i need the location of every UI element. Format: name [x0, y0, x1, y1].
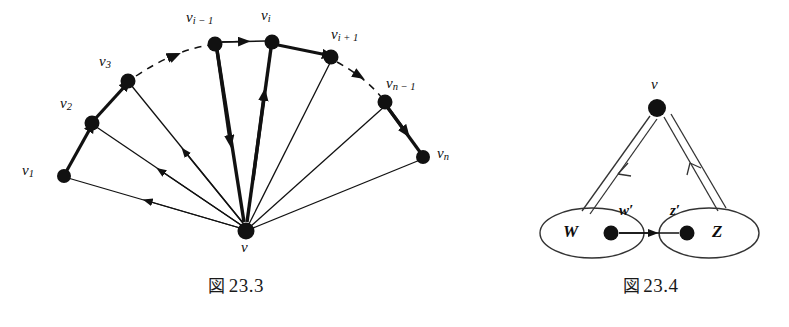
label-vi+1: vi + 1 [331, 27, 358, 44]
edge-v-to-W [582, 116, 657, 214]
arc-edge-vn-1-vn-arrow [388, 108, 405, 131]
spoke-vn-to-v [253, 160, 420, 228]
label-w-prime: w′ [619, 203, 633, 218]
figure-page: v1 v2 v3 vi − 1 vi vi + 1 vn − 1 vn v 図2… [0, 0, 789, 327]
figure-23-3-caption: 図23.3 [0, 272, 486, 297]
edge-Z-to-v [664, 114, 726, 211]
figure-23-4-canvas [500, 0, 789, 270]
arc-edge-v1-v2 [66, 127, 91, 172]
label-vn-1: vn − 1 [386, 76, 416, 93]
vertex-z-prime [680, 226, 695, 241]
arc-edge-group [66, 41, 420, 172]
vertex-vi+1 [324, 50, 339, 65]
arc-edge-vi-vi+1 [278, 45, 327, 55]
vertex-vn [416, 150, 430, 164]
label-center-v: v [241, 240, 248, 255]
label-set-W: W [563, 222, 578, 242]
vertex-vi [265, 35, 280, 50]
spoke-vi+1-to-v [249, 61, 331, 224]
label-set-Z: Z [712, 222, 722, 242]
figure-23-4: v w′ z′ W Z 図23.4 [500, 0, 789, 327]
vertex-v [238, 223, 255, 240]
figure-kanji-icon: 図 [623, 276, 644, 296]
label-vn: vn [437, 146, 449, 163]
label-vi-1: vi − 1 [186, 10, 213, 27]
spoke-v-to-vi-1-arrow [217, 50, 230, 140]
label-v2: v2 [60, 96, 72, 113]
vertex-w-prime [604, 226, 619, 241]
label-v1: v1 [22, 163, 34, 180]
figure-number: 23.4 [643, 275, 678, 296]
figure-23-4-caption: 図23.4 [506, 272, 789, 297]
arc-edge-vi-1-vi-arrow [222, 42, 243, 43]
label-z-prime: z′ [670, 203, 680, 218]
label-v3: v3 [99, 54, 111, 71]
vertex-v2 [85, 116, 100, 131]
spoke-group-thin [68, 85, 243, 228]
spoke-vn-1-to-v [251, 106, 385, 226]
vertex-vi-1 [208, 37, 223, 52]
figure-23-3: v1 v2 v3 vi − 1 vi vi + 1 vn − 1 vn v 図2… [0, 0, 500, 327]
figure-kanji-icon: 図 [208, 276, 229, 296]
figure-23-3-canvas [0, 0, 500, 270]
label-v-top: v [651, 77, 658, 92]
figure-number: 23.3 [229, 275, 264, 296]
arc-edge-vi+1-vn-1-dashed [337, 62, 382, 98]
vertex-v-top [648, 99, 666, 117]
arc-edge-v3-vi-1-dashed [136, 45, 210, 76]
vertex-vn-1 [378, 95, 393, 110]
vertex-v1 [57, 169, 71, 183]
spoke-vi-to-v-arrow [253, 96, 264, 180]
label-vi: vi [261, 8, 271, 25]
vertex-v3 [121, 74, 136, 89]
arc-edge-v2-v3 [95, 85, 126, 119]
